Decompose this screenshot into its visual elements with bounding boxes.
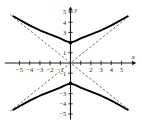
y-axis-tick-label: 3 [63, 29, 66, 36]
y-axis-tick-label: 4 [63, 19, 67, 26]
x-axis-tick-label: −4 [26, 66, 34, 73]
x-axis-tick-label: −2 [47, 66, 54, 73]
y-axis-arrow-icon [68, 6, 73, 10]
x-axis-tick-label: 4 [110, 66, 114, 73]
vertex-marker [69, 82, 72, 85]
y-axis-tick-label: −3 [59, 90, 66, 97]
vertex-marker [69, 41, 72, 44]
y-axis-tick-label: −1 [59, 70, 66, 77]
y-axis-tick-label: 5 [63, 8, 66, 15]
y-axis-tick-label: −4 [59, 100, 67, 107]
y-axis-tick-label: −5 [59, 110, 66, 117]
x-axis-tick-label: 2 [89, 66, 92, 73]
x-axis-tick-label: 5 [120, 66, 123, 73]
y-axis-tick-label: 1 [63, 49, 66, 56]
x-axis-tick-label: −5 [16, 66, 23, 73]
hyperbola-figure: −5−4−3−2−12345 5431−1−3−4−5 x y [0, 0, 142, 133]
y-axis-label: y [74, 6, 78, 13]
x-axis-tick-label: −3 [36, 66, 43, 73]
x-axis-arrow-icon [132, 61, 136, 66]
x-axis-label: x [131, 53, 135, 60]
x-axis-tick-label: 3 [99, 66, 102, 73]
plot-canvas: −5−4−3−2−12345 5431−1−3−4−5 x y [0, 0, 142, 133]
